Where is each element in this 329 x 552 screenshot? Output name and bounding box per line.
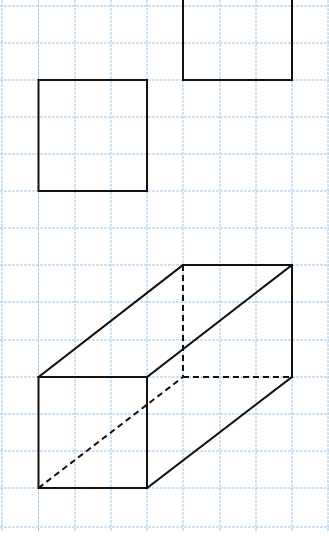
geometric-shapes [39, 0, 293, 488]
square-left [39, 80, 148, 191]
prism-front-face [39, 377, 148, 488]
grid-paper-diagram [0, 0, 329, 552]
square-top-right [183, 0, 292, 80]
